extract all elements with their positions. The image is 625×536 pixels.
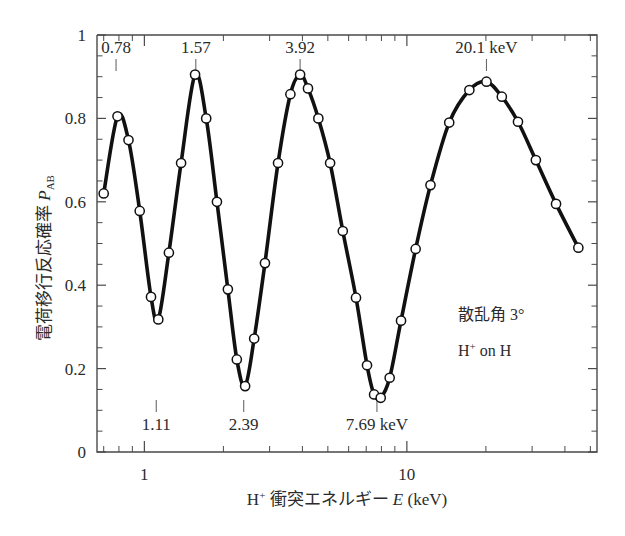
data-point-marker [223,285,232,294]
note-scattering-angle-text: 散乱角 3° [458,306,524,323]
data-point-marker [376,393,385,402]
annotation-label-bottom: 2.39 [229,415,259,434]
note-collision-system: H+ on H [458,340,512,359]
data-point-marker [497,92,506,101]
svg-text:電荷移行反応確率 PAB: 電荷移行反応確率 PAB [35,175,56,341]
svg-text:H+ 衝突エネルギー E (keV): H+ 衝突エネルギー E (keV) [247,489,447,509]
y-tick-label: 0 [78,443,87,462]
data-point-marker [146,292,155,301]
note-collision-system-rest: on H [476,342,512,359]
data-point-marker [465,85,474,94]
x-axis-title-unit: (keV) [407,490,447,509]
data-point-marker [396,316,405,325]
data-point-marker [314,114,323,123]
charge-transfer-probability-plot: 00.20.40.60.81110 0.781.573.9220.1 keV1.… [0,0,625,536]
y-axis-title: 電荷移行反応確率 PAB [35,175,56,341]
data-point-marker [531,156,540,165]
annotation-label-top: 3.92 [285,38,315,57]
data-point-marker [273,158,282,167]
annotation-label-top: 0.78 [101,38,131,57]
data-point-marker [426,181,435,190]
x-tick-label: 10 [398,465,415,484]
annotation-label-bottom: 1.11 [142,415,171,434]
y-axis-title-main: 電荷移行反応確率 [35,205,54,341]
y-tick-label: 0.8 [65,109,86,128]
data-point-marker [176,158,185,167]
data-point-marker [411,244,420,253]
data-point-marker [212,197,221,206]
data-point-marker [99,189,108,198]
data-point-marker [513,117,522,126]
y-axis-title-symbol: P [35,190,54,201]
data-point-marker [362,361,371,370]
data-point-marker [574,243,583,252]
note-collision-system-prefix: H [458,342,470,359]
y-tick-label: 1 [78,26,87,45]
data-point-marker [154,315,163,324]
annotation-label-bottom: 7.69 keV [346,415,409,434]
data-point-marker [445,118,454,127]
x-tick-label: 1 [140,465,149,484]
y-tick-label: 0.4 [65,276,87,295]
data-point-marker [286,90,295,99]
data-point-marker [190,70,199,79]
data-point-marker [303,84,312,93]
x-axis-title-main: 衝突エネルギー [270,490,389,509]
data-point-marker [385,373,394,382]
y-tick-label: 0.6 [65,193,86,212]
data-point-marker [241,382,250,391]
note-scattering-angle: 散乱角 3° [458,306,524,323]
x-axis-title-symbol: E [392,490,404,509]
data-point-marker [124,135,133,144]
data-point-marker [351,293,360,302]
y-axis-title-subscript: AB [44,175,56,190]
data-point-marker [164,248,173,257]
data-point-marker [260,259,269,268]
data-point-marker [338,226,347,235]
data-point-marker [326,158,335,167]
data-point-marker [551,199,560,208]
data-point-marker [135,206,144,215]
svg-text:H+ on H: H+ on H [458,340,512,359]
data-point-marker [232,355,241,364]
data-point-marker [482,77,491,86]
x-axis-title: H+ 衝突エネルギー E (keV) [247,489,447,509]
annotation-label-top: 20.1 keV [455,38,518,57]
y-tick-label: 0.2 [65,360,86,379]
chart-figure: 00.20.40.60.81110 0.781.573.9220.1 keV1.… [0,0,625,536]
annotation-label-top: 1.57 [181,38,211,57]
x-axis-title-prefix: H [247,490,259,509]
data-point-marker [250,334,259,343]
data-point-marker [113,112,122,121]
data-point-marker [296,70,305,79]
data-point-marker [202,114,211,123]
